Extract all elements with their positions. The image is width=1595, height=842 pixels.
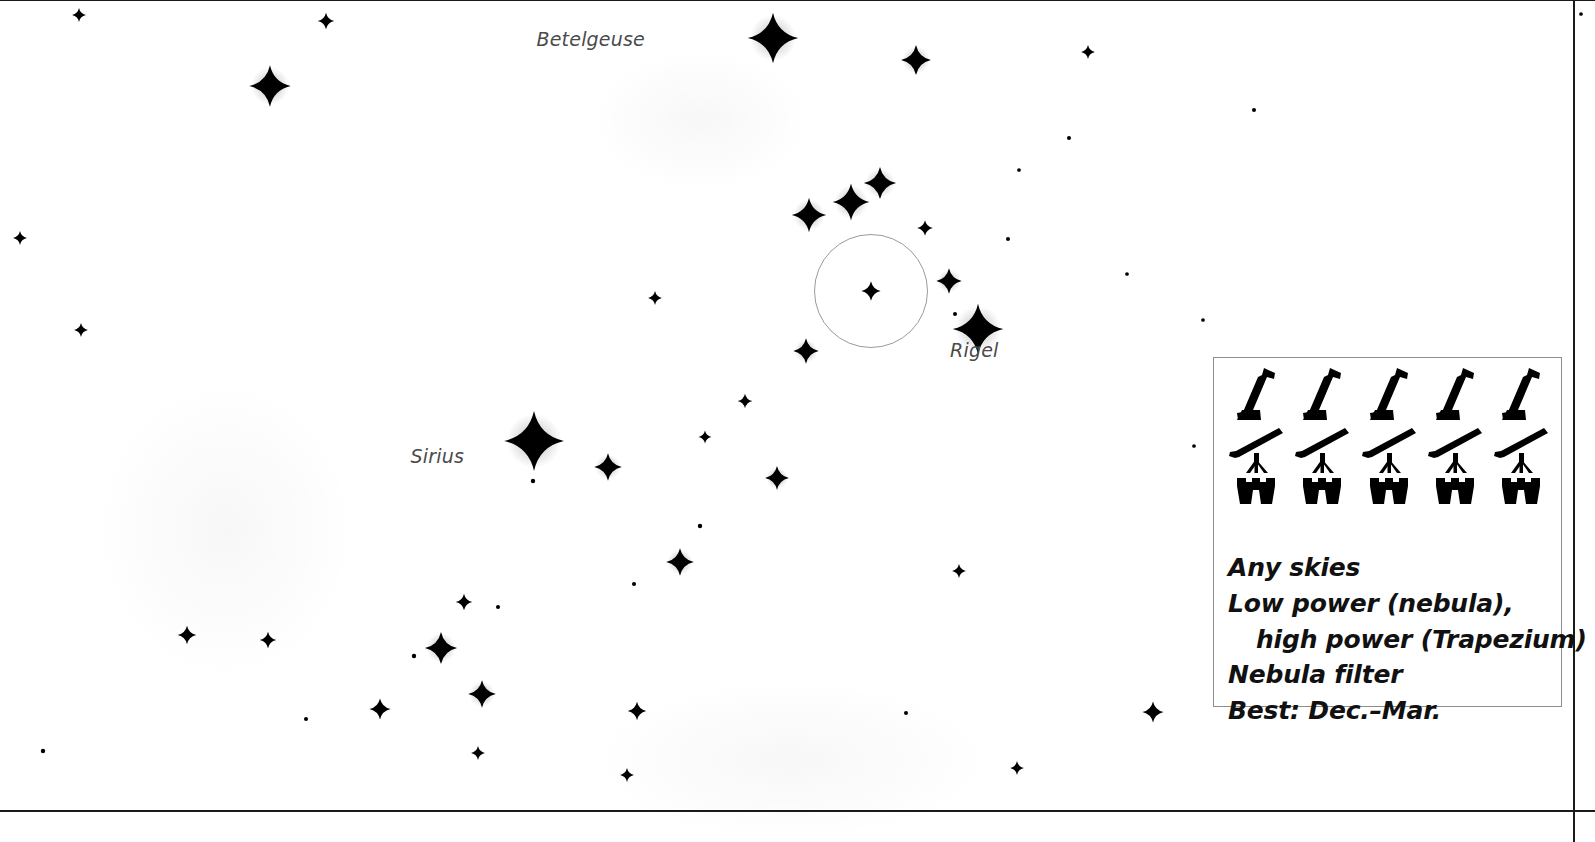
binoculars-icon bbox=[1226, 476, 1286, 510]
star-glyph bbox=[468, 680, 496, 708]
reflector-telescope-icon bbox=[1359, 366, 1419, 424]
star-glyph bbox=[72, 8, 86, 22]
observing-notes: Any skies Low power (nebula), high power… bbox=[1228, 550, 1560, 729]
star-glyph bbox=[952, 564, 966, 578]
refractor-telescope-icon bbox=[1359, 426, 1419, 474]
binoculars-icon bbox=[1359, 476, 1419, 510]
top-rule bbox=[0, 0, 1595, 1]
star-glyph bbox=[412, 654, 416, 658]
refractor-telescope-icon bbox=[1292, 426, 1352, 474]
star-glyph bbox=[632, 582, 636, 586]
star-glyph bbox=[1252, 108, 1256, 112]
star-glyph bbox=[504, 411, 564, 471]
star-glyph bbox=[1010, 761, 1024, 775]
refractor-telescope-icon bbox=[1226, 426, 1286, 474]
star-glyph bbox=[765, 466, 789, 490]
reflector-telescope-icon bbox=[1425, 366, 1485, 424]
star-glyph bbox=[793, 338, 818, 363]
star-glyph bbox=[699, 431, 712, 444]
observing-note-line: Any skies bbox=[1228, 550, 1560, 586]
binoculars-icon bbox=[1491, 476, 1551, 510]
binoculars-icon bbox=[1425, 476, 1485, 510]
rating-row-binoculars bbox=[1226, 476, 1551, 510]
star-glyph bbox=[864, 167, 896, 199]
star-glyph bbox=[471, 746, 485, 760]
star-glyph bbox=[792, 198, 827, 233]
bottom-rule bbox=[0, 810, 1595, 812]
star-glyph bbox=[738, 394, 753, 409]
star-glyph bbox=[531, 479, 535, 483]
instrument-rating-icons bbox=[1226, 366, 1551, 512]
observing-note-line: Nebula filter bbox=[1228, 657, 1560, 693]
star-glyph bbox=[648, 291, 662, 305]
star-glyph bbox=[833, 184, 870, 221]
star-glyph bbox=[1067, 136, 1071, 140]
star-glyph bbox=[425, 632, 457, 664]
reflector-telescope-icon bbox=[1292, 366, 1352, 424]
star-glyph bbox=[178, 626, 196, 644]
star-glyph bbox=[628, 702, 646, 720]
rating-row-refractor-telescope bbox=[1226, 426, 1551, 474]
star-glyph bbox=[1201, 318, 1205, 322]
star-glyph bbox=[456, 594, 473, 611]
observing-note-line: high power (Trapezium) bbox=[1228, 622, 1560, 658]
star-glyph bbox=[666, 548, 694, 576]
observing-note-line: Low power (nebula), bbox=[1228, 586, 1560, 622]
star-chart-page: Betelgeuse Rigel Sirius Star maps courte… bbox=[0, 0, 1595, 842]
star-glyph bbox=[369, 698, 390, 719]
star-glyph bbox=[917, 220, 933, 236]
deep-sky-object-circle bbox=[814, 234, 928, 348]
star-label-rigel: Rigel bbox=[950, 339, 999, 361]
star-glyph bbox=[249, 65, 290, 106]
star-glyph bbox=[953, 312, 957, 316]
binoculars-icon bbox=[1292, 476, 1352, 510]
star-glyph bbox=[594, 453, 622, 481]
star-glyph bbox=[41, 749, 45, 753]
star-glyph bbox=[304, 717, 308, 721]
star-glyph bbox=[74, 323, 88, 337]
star-glyph bbox=[748, 13, 799, 64]
rating-row-reflector-telescope bbox=[1226, 366, 1551, 424]
star-glyph bbox=[904, 711, 908, 715]
observing-info-box: Any skies Low power (nebula), high power… bbox=[1213, 357, 1562, 707]
star-glyph bbox=[318, 13, 335, 30]
star-glyph bbox=[901, 45, 931, 75]
star-glyph bbox=[260, 632, 277, 649]
refractor-telescope-icon bbox=[1491, 426, 1551, 474]
star-glyph bbox=[1081, 45, 1095, 59]
star-glyph bbox=[1192, 444, 1196, 448]
star-glyph bbox=[1006, 237, 1010, 241]
star-glyph bbox=[1125, 272, 1129, 276]
credit-rail bbox=[1573, 0, 1575, 842]
observing-note-line: Best: Dec.–Mar. bbox=[1228, 693, 1560, 729]
star-glyph bbox=[1142, 701, 1163, 722]
reflector-telescope-icon bbox=[1226, 366, 1286, 424]
star-glyph bbox=[620, 768, 634, 782]
star-label-sirius: Sirius bbox=[410, 445, 464, 467]
star-glyph bbox=[13, 231, 27, 245]
star-glyph bbox=[1017, 168, 1021, 172]
star-glyph bbox=[1579, 12, 1583, 16]
star-glyph bbox=[496, 605, 500, 609]
reflector-telescope-icon bbox=[1491, 366, 1551, 424]
star-glyph bbox=[698, 524, 702, 528]
star-label-betelgeuse: Betelgeuse bbox=[536, 28, 645, 50]
star-glyph bbox=[936, 268, 961, 293]
refractor-telescope-icon bbox=[1425, 426, 1485, 474]
